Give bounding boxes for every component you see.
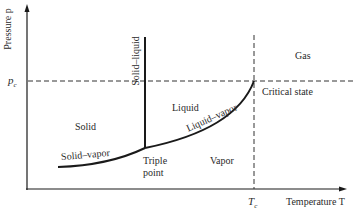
pc-tick-sub: c [14,81,17,89]
region-vapor-label: Vapor [210,156,234,166]
tc-tick-sub: c [254,202,257,210]
y-axis-label-text: Pressure p [2,8,13,49]
triple-point-line1: Triple [143,155,167,167]
liquid-vapor-curve [145,81,254,148]
x-axis-arrow-icon [339,187,347,192]
region-liquid-label: Liquid [172,103,199,113]
solid-liquid-label: Solid–liquid [131,31,141,91]
triple-point-label: Triple point [143,155,167,179]
y-axis-arrow-icon [25,4,30,12]
x-axis-label: Temperature T [286,197,345,207]
tc-tick-label: Tc [248,196,257,210]
region-solid-label: Solid [75,122,96,132]
x-axis-label-text: Temperature T [286,196,345,207]
region-gas-label: Gas [295,51,311,61]
y-axis-label: Pressure p [3,0,13,59]
pc-tick-label: pc [8,75,17,89]
triple-point-line2: point [143,167,167,179]
critical-state-label: Critical state [262,87,313,97]
